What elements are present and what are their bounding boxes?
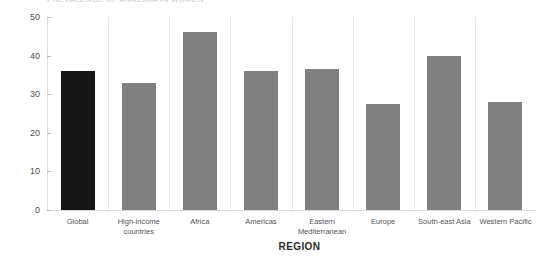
y-tick-label: 40 [12, 52, 40, 61]
category-separator [475, 17, 476, 211]
bar [244, 71, 278, 210]
category-separator [108, 17, 109, 211]
y-tick-label: 0 [12, 206, 40, 215]
x-axis-category-label: Africa [169, 217, 230, 227]
category-separator [414, 17, 415, 211]
y-tick-mark [47, 133, 51, 134]
chart-title: PREVALENCE OF ANAEMIA IN WOMEN [47, 0, 203, 3]
y-tick-label: 10 [12, 167, 40, 176]
x-axis-category-label: Western Pacific [475, 217, 536, 227]
bar [183, 32, 217, 210]
x-axis-category-label: Eastern Mediterranean [292, 217, 353, 237]
y-tick-label: 30 [12, 90, 40, 99]
y-tick-mark [47, 210, 51, 211]
bar [61, 71, 95, 210]
x-axis-title: REGION [0, 241, 547, 252]
bar [305, 69, 339, 210]
x-axis-category-label: South-east Asia [414, 217, 475, 227]
x-axis-category-label: Global [47, 217, 108, 227]
x-axis-category-label: High-income countries [108, 217, 169, 237]
plot-area: 01020304050 [47, 17, 536, 211]
bar [122, 83, 156, 210]
x-axis-category-label: Europe [353, 217, 414, 227]
category-separator [230, 17, 231, 211]
y-axis-line [47, 17, 48, 211]
y-tick-mark [47, 56, 51, 57]
y-tick-mark [47, 17, 51, 18]
bar [488, 102, 522, 210]
bar-chart: PREVALENCE OF ANAEMIA IN WOMEN 010203040… [0, 0, 547, 261]
y-tick-label: 20 [12, 129, 40, 138]
category-separator [353, 17, 354, 211]
bar [427, 56, 461, 210]
bar [366, 104, 400, 210]
category-separator [169, 17, 170, 211]
x-axis-category-label: Americas [230, 217, 291, 227]
y-tick-mark [47, 94, 51, 95]
category-separator [292, 17, 293, 211]
y-tick-mark [47, 171, 51, 172]
y-tick-label: 50 [12, 13, 40, 22]
